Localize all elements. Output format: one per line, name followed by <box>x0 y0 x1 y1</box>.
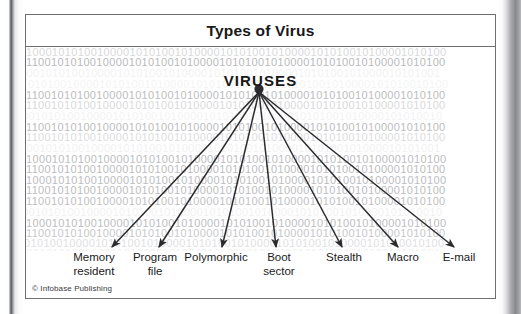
node-label: E-mail <box>409 251 509 265</box>
publisher-credit: © Infobase Publishing <box>32 284 112 293</box>
figure-page: Types of Virus 1000101010010000101010010… <box>0 0 521 314</box>
scan-gutter-left <box>0 0 24 314</box>
hub-label: VIRUSES <box>26 72 495 89</box>
title-bar: Types of Virus <box>26 15 495 47</box>
scan-gutter-right <box>498 0 521 314</box>
diagram-frame: Types of Virus 1000101010010000101010010… <box>25 14 496 299</box>
figure-title: Types of Virus <box>206 22 314 40</box>
